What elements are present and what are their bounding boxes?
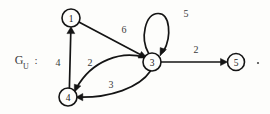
graph-figure: 1 3 4 5 6 5 2 4 2 3 G U : [0,0,270,114]
node-3[interactable]: 3 [143,53,161,71]
trailing-period-mark [257,62,259,64]
edge-4-to-1 [67,27,75,88]
edge-weight-3-to-5: 2 [194,44,199,55]
edge-weight-3-to-4-upper: 2 [88,57,93,68]
graph-name-colon: : [34,54,37,66]
node-5-label: 5 [234,58,239,68]
edge-weight-4-to-1: 4 [56,57,61,68]
edge-3-self-loop-path [144,13,168,53]
node-5[interactable]: 5 [228,54,245,71]
edge-weight-1-to-3: 6 [122,24,127,35]
node-4[interactable]: 4 [59,88,77,106]
edge-3-to-5 [161,58,227,65]
edge-3-self-loop [144,13,168,56]
node-3-label: 3 [150,58,155,68]
edge-weight-3-self-loop: 5 [184,8,189,19]
edge-4-to-1-path [69,32,70,89]
edge-4-to-1-arrowhead [67,27,75,34]
edge-1-to-3-path [79,22,144,56]
graph-canvas: 1 3 4 5 6 5 2 4 2 3 G U : [0,0,270,114]
node-1-label: 1 [69,14,74,24]
graph-name: G U : [15,53,38,71]
edge-1-to-3 [79,22,147,58]
edge-weight-3-to-4-lower: 3 [109,79,114,90]
edge-3-to-4-lower-path [80,71,151,97]
edge-3-to-5-arrowhead [221,58,228,65]
node-1[interactable]: 1 [62,9,80,27]
node-4-label: 4 [66,93,71,103]
graph-name-subscript: U [23,62,29,71]
